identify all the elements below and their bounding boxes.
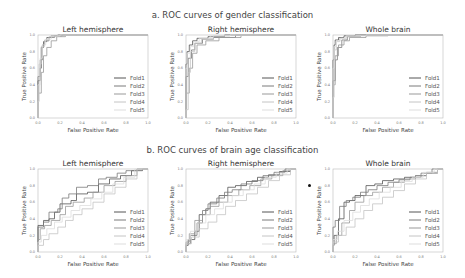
x-tick-label: 1.0 xyxy=(145,121,151,125)
legend-label: Fold5 xyxy=(130,241,145,247)
y-tick-label: 0.8 xyxy=(177,50,183,54)
x-tick-label: 0.8 xyxy=(271,255,277,259)
x-tick-label: 1.0 xyxy=(293,255,299,259)
y-tick-label: 0.4 xyxy=(177,83,183,87)
y-axis-label: True Positive Rate xyxy=(21,185,27,236)
legend-label: Fold1 xyxy=(425,75,440,81)
plot-title: Whole brain xyxy=(365,159,410,168)
legend-label: Fold1 xyxy=(130,75,145,81)
legend-label: Fold4 xyxy=(425,99,440,105)
section-title-brain-age: b. ROC curves of brain age classificatio… xyxy=(0,145,465,155)
legend-label: Fold2 xyxy=(278,217,293,223)
y-tick-label: 0.8 xyxy=(324,184,330,188)
x-tick-label: 0.0 xyxy=(35,255,41,259)
legend-label: Fold4 xyxy=(278,99,293,105)
x-tick-label: 0.6 xyxy=(249,121,255,125)
x-tick-label: 1.0 xyxy=(293,121,299,125)
y-tick-label: 0.6 xyxy=(29,200,35,204)
plot-title: Right hemisphere xyxy=(208,25,275,34)
legend-label: Fold3 xyxy=(425,91,440,97)
legend-label: Fold4 xyxy=(130,233,145,239)
x-tick-label: 0.0 xyxy=(330,255,336,259)
x-axis-label: False Positive Rate xyxy=(362,127,414,133)
y-tick-label: 0.6 xyxy=(177,66,183,70)
x-tick-label: 1.0 xyxy=(440,255,446,259)
x-tick-label: 0.4 xyxy=(374,121,380,125)
x-axis-label: False Positive Rate xyxy=(215,127,267,133)
x-tick-label: 0.6 xyxy=(101,255,107,259)
x-tick-label: 0.6 xyxy=(249,255,255,259)
legend-label: Fold4 xyxy=(425,233,440,239)
legend-label: Fold5 xyxy=(130,107,145,113)
plot-brainage-left: Left hemisphere0.00.20.40.60.81.00.00.20… xyxy=(8,158,158,270)
legend-label: Fold5 xyxy=(425,241,440,247)
section-title-gender: a. ROC curves of gender classification xyxy=(0,10,465,20)
y-tick-label: 1.0 xyxy=(29,167,35,171)
x-tick-label: 0.4 xyxy=(374,255,380,259)
x-tick-label: 1.0 xyxy=(440,121,446,125)
legend-label: Fold3 xyxy=(130,225,145,231)
legend-label: Fold5 xyxy=(278,241,293,247)
legend-label: Fold2 xyxy=(130,217,145,223)
x-tick-label: 0.6 xyxy=(101,121,107,125)
plot-brainage-right: Right hemisphere0.00.20.40.60.81.00.00.2… xyxy=(156,158,306,270)
y-axis-label: True Positive Rate xyxy=(316,51,322,102)
y-tick-label: 0.6 xyxy=(177,200,183,204)
x-tick-label: 1.0 xyxy=(145,255,151,259)
y-tick-label: 0.2 xyxy=(29,234,35,238)
legend-label: Fold5 xyxy=(278,107,293,113)
x-tick-label: 0.6 xyxy=(396,121,402,125)
plot-title: Whole brain xyxy=(365,25,410,34)
legend-label: Fold3 xyxy=(130,91,145,97)
y-tick-label: 0.0 xyxy=(324,250,330,254)
y-tick-label: 0.4 xyxy=(177,217,183,221)
y-tick-label: 0.8 xyxy=(177,184,183,188)
y-tick-label: 0.0 xyxy=(177,250,183,254)
x-axis-label: False Positive Rate xyxy=(362,261,414,267)
y-tick-label: 0.4 xyxy=(324,83,330,87)
x-tick-label: 0.2 xyxy=(352,121,358,125)
stray-dot-marker xyxy=(308,184,311,187)
x-tick-label: 0.2 xyxy=(205,255,211,259)
x-tick-label: 0.2 xyxy=(205,121,211,125)
y-tick-label: 0.2 xyxy=(29,100,35,104)
y-axis-label: True Positive Rate xyxy=(169,51,175,102)
x-tick-label: 0.4 xyxy=(79,255,85,259)
legend-label: Fold3 xyxy=(425,225,440,231)
legend-label: Fold5 xyxy=(425,107,440,113)
legend-label: Fold1 xyxy=(278,75,293,81)
plot-title: Left hemisphere xyxy=(63,159,124,168)
x-axis-label: False Positive Rate xyxy=(215,261,267,267)
y-tick-label: 0.4 xyxy=(29,83,35,87)
y-tick-label: 0.8 xyxy=(29,184,35,188)
y-tick-label: 0.0 xyxy=(29,250,35,254)
y-tick-label: 1.0 xyxy=(324,33,330,37)
y-tick-label: 0.2 xyxy=(324,234,330,238)
y-tick-label: 0.4 xyxy=(324,217,330,221)
x-tick-label: 0.8 xyxy=(123,121,129,125)
y-axis-label: True Positive Rate xyxy=(21,51,27,102)
x-tick-label: 0.6 xyxy=(396,255,402,259)
y-tick-label: 0.0 xyxy=(177,116,183,120)
x-tick-label: 0.8 xyxy=(123,255,129,259)
y-tick-label: 0.8 xyxy=(29,50,35,54)
y-tick-label: 1.0 xyxy=(29,33,35,37)
y-tick-label: 0.2 xyxy=(324,100,330,104)
plot-gender-left: Left hemisphere0.00.20.40.60.81.00.00.20… xyxy=(8,24,158,136)
legend-label: Fold2 xyxy=(130,83,145,89)
y-tick-label: 0.6 xyxy=(324,66,330,70)
x-tick-label: 0.0 xyxy=(183,255,189,259)
legend-label: Fold4 xyxy=(278,233,293,239)
legend-label: Fold2 xyxy=(278,83,293,89)
y-tick-label: 1.0 xyxy=(177,167,183,171)
x-tick-label: 0.0 xyxy=(183,121,189,125)
y-tick-label: 0.6 xyxy=(324,200,330,204)
legend-label: Fold3 xyxy=(278,91,293,97)
x-tick-label: 0.4 xyxy=(227,121,233,125)
y-axis-label: True Positive Rate xyxy=(169,185,175,236)
legend-label: Fold2 xyxy=(425,217,440,223)
y-tick-label: 0.0 xyxy=(29,116,35,120)
legend-label: Fold1 xyxy=(278,209,293,215)
x-tick-label: 0.0 xyxy=(35,121,41,125)
legend-label: Fold3 xyxy=(278,225,293,231)
